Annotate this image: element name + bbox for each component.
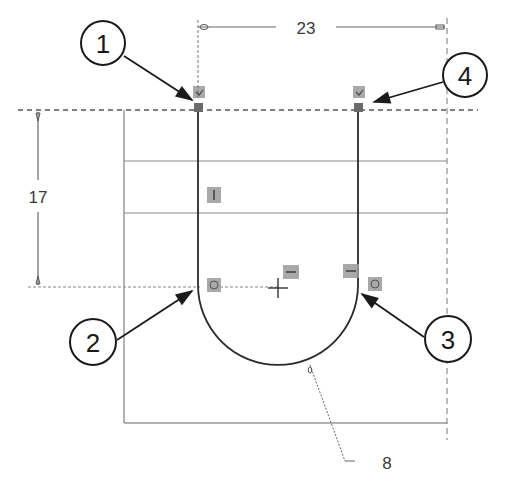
callout-1-label: 1 — [96, 29, 110, 59]
origin-marker — [268, 278, 288, 298]
callout-3: 3 — [362, 294, 471, 362]
callout-3-label: 3 — [441, 325, 455, 355]
relation-icons — [193, 86, 382, 292]
dimension-radius-label[interactable]: 8 — [382, 454, 391, 473]
coincident-icon[interactable] — [353, 86, 365, 98]
dimension-radius[interactable]: 8 — [308, 365, 392, 473]
callout-4: 4 — [374, 53, 487, 102]
dimension-height-label[interactable]: 17 — [29, 188, 48, 207]
horizontal-relation-icon[interactable] — [343, 264, 359, 278]
tangent-icon[interactable] — [368, 277, 382, 291]
dimension-width[interactable]: 23 — [198, 19, 445, 100]
tangent-icon[interactable] — [207, 278, 221, 292]
horizontal-relation-icon[interactable] — [283, 265, 299, 279]
endpoint-top-right[interactable] — [354, 103, 363, 112]
dimension-width-label[interactable]: 23 — [297, 19, 316, 38]
coincident-icon[interactable] — [193, 86, 205, 98]
callout-4-label: 4 — [458, 61, 472, 91]
part-outline — [18, 18, 478, 440]
callout-1: 1 — [81, 21, 192, 100]
sketch-canvas: 23 17 8 1 4 2 3 — [0, 0, 506, 484]
callout-2: 2 — [70, 291, 192, 365]
endpoint-top-left[interactable] — [194, 103, 203, 112]
dimension-height[interactable]: 17 — [29, 112, 48, 285]
slot-sketch[interactable] — [198, 110, 358, 365]
callout-2-label: 2 — [86, 328, 100, 358]
vertical-relation-icon[interactable] — [207, 187, 221, 203]
